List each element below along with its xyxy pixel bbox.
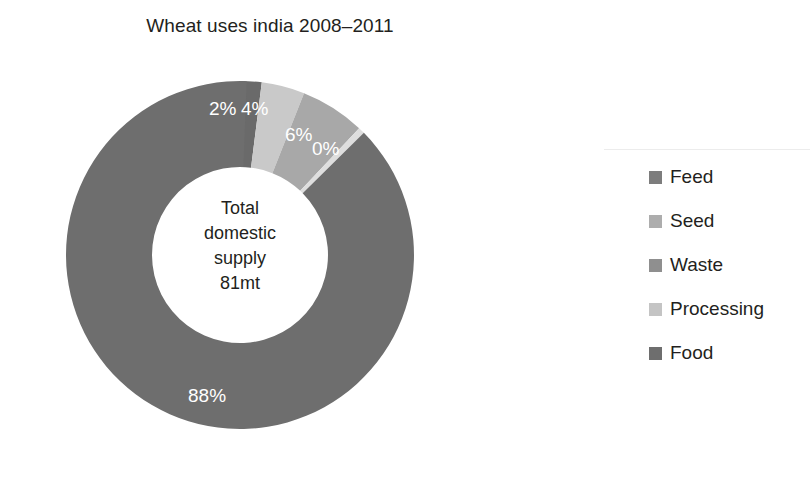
chart-legend: FeedSeedWasteProcessingFood [649, 155, 809, 375]
legend-swatch-icon [649, 259, 662, 272]
legend-swatch-icon [649, 171, 662, 184]
chart-canvas: Wheat uses india 2008–2011 Total domesti… [0, 0, 810, 484]
legend-item-feed[interactable]: Feed [649, 155, 809, 199]
legend-item-label: Feed [670, 166, 713, 188]
legend-item-label: Processing [670, 298, 764, 320]
page-title: Wheat uses india 2008–2011 [0, 14, 540, 38]
legend-item-waste[interactable]: Waste [649, 243, 809, 287]
donut-svg [65, 80, 415, 430]
donut-chart [65, 80, 415, 430]
legend-item-label: Seed [670, 210, 714, 232]
legend-item-food[interactable]: Food [649, 331, 809, 375]
legend-item-label: Waste [670, 254, 723, 276]
legend-item-processing[interactable]: Processing [649, 287, 809, 331]
donut-slice-group [66, 81, 414, 429]
legend-item-label: Food [670, 342, 713, 364]
legend-swatch-icon [649, 303, 662, 316]
legend-swatch-icon [649, 347, 662, 360]
legend-item-seed[interactable]: Seed [649, 199, 809, 243]
legend-swatch-icon [649, 215, 662, 228]
scan-artifact-line [604, 149, 810, 150]
